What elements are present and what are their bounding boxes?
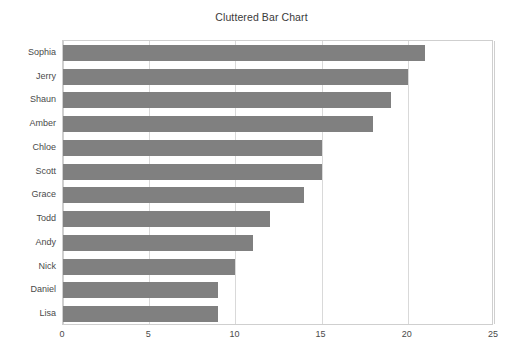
y-tick-label-jerry: Jerry [0, 71, 56, 81]
bar-chart-figure: Cluttered Bar Chart SophiaJerryShaunAmbe… [0, 0, 523, 358]
y-tick-label-daniel: Daniel [0, 284, 56, 294]
y-tick-label-grace: Grace [0, 189, 56, 199]
x-tick-label-15: 15 [316, 329, 326, 339]
plot-area [62, 40, 493, 325]
x-tick-label-0: 0 [59, 329, 64, 339]
bar-row [63, 306, 218, 322]
bar-row [63, 235, 253, 251]
bar-daniel [63, 282, 218, 298]
x-tick-label-10: 10 [229, 329, 239, 339]
chart-title: Cluttered Bar Chart [0, 11, 523, 23]
bar-grace [63, 187, 304, 203]
bar-chloe [63, 140, 322, 156]
y-tick-label-shaun: Shaun [0, 94, 56, 104]
bar-nick [63, 259, 235, 275]
x-tick-label-20: 20 [402, 329, 412, 339]
y-tick-label-amber: Amber [0, 118, 56, 128]
bars-layer [63, 41, 492, 324]
bar-jerry [63, 69, 408, 85]
y-axis-category-labels: SophiaJerryShaunAmberChloeScottGraceTodd… [0, 40, 56, 325]
gridline-x-25 [494, 41, 495, 324]
y-tick-label-chloe: Chloe [0, 142, 56, 152]
x-tick-label-25: 25 [488, 329, 498, 339]
x-axis-value-labels: 0510152025 [62, 329, 493, 347]
bar-row [63, 164, 322, 180]
bar-row [63, 116, 373, 132]
bar-lisa [63, 306, 218, 322]
bar-row [63, 140, 322, 156]
y-tick-label-lisa: Lisa [0, 308, 56, 318]
bar-row [63, 187, 304, 203]
bar-row [63, 259, 235, 275]
bar-andy [63, 235, 253, 251]
bar-shaun [63, 92, 391, 108]
bar-amber [63, 116, 373, 132]
bar-todd [63, 211, 270, 227]
y-tick-label-todd: Todd [0, 213, 56, 223]
bar-row [63, 282, 218, 298]
y-tick-label-sophia: Sophia [0, 47, 56, 57]
bar-sophia [63, 45, 425, 61]
x-tick-label-5: 5 [146, 329, 151, 339]
bar-row [63, 211, 270, 227]
bar-row [63, 69, 408, 85]
bar-scott [63, 164, 322, 180]
y-tick-label-andy: Andy [0, 237, 56, 247]
bar-row [63, 92, 391, 108]
y-tick-label-scott: Scott [0, 166, 56, 176]
y-tick-label-nick: Nick [0, 261, 56, 271]
bar-row [63, 45, 425, 61]
